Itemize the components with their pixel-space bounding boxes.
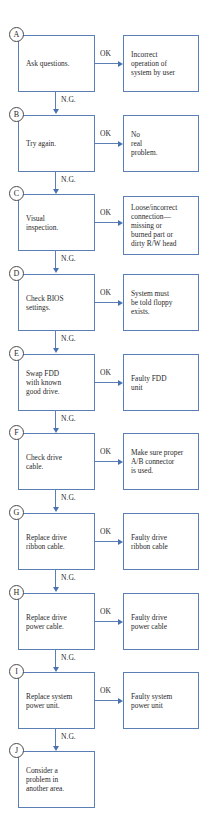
ng-label-b: N.G.	[61, 175, 76, 184]
action-box-i: Replace system power unit.	[18, 672, 95, 729]
ok-label-f: OK	[100, 447, 111, 456]
action-box-c: Visual inspection.	[18, 194, 95, 251]
result-box-b: No real problem.	[123, 115, 199, 172]
ng-label-a: N.G.	[61, 95, 76, 104]
result-box-g: Faulty drive ribbon cable	[123, 513, 199, 570]
arrow-down-icon	[53, 587, 59, 592]
action-text-g: Replace drive ribbon cable.	[26, 532, 91, 550]
result-text-i: Faulty system power unit	[131, 691, 195, 709]
ok-label-i: OK	[100, 686, 111, 695]
result-text-b: No real problem.	[131, 130, 195, 157]
ok-label-h: OK	[100, 607, 111, 616]
step-h: Replace drive power cable. H OK Faulty d…	[0, 593, 207, 673]
step-label-a: A	[9, 27, 24, 42]
action-text-c: Visual inspection.	[26, 213, 91, 231]
step-label-h: H	[9, 585, 24, 600]
result-box-d: System must be told floppy exists.	[123, 274, 199, 331]
action-text-j: Consider a problem in another area.	[26, 766, 91, 793]
step-label-i: I	[9, 664, 24, 679]
step-b: Try again. B OK No real problem. N.G.	[0, 115, 207, 195]
result-text-a: Incorrect operation of system by user	[131, 50, 195, 77]
action-box-e: Swap FDD with known good drive.	[18, 354, 95, 411]
step-g: Replace drive ribbon cable. G OK Faulty …	[0, 513, 207, 593]
result-text-e: Faulty FDD unit	[131, 373, 195, 391]
ok-label-e: OK	[100, 368, 111, 377]
step-i: Replace system power unit. I OK Faulty s…	[0, 672, 207, 752]
step-a: Ask questions. A OK Incorrect operation …	[0, 35, 207, 115]
action-box-g: Replace drive ribbon cable.	[18, 513, 95, 570]
action-box-a: Ask questions.	[18, 35, 95, 92]
action-box-h: Replace drive power cable.	[18, 593, 95, 650]
ng-label-c: N.G.	[61, 254, 76, 263]
result-box-a: Incorrect operation of system by user	[123, 35, 199, 92]
step-f: Check drive cable. F OK Make sure proper…	[0, 433, 207, 513]
ok-label-g: OK	[100, 527, 111, 536]
result-box-c: Loose/incorrect connection— missing or b…	[123, 196, 199, 255]
result-box-e: Faulty FDD unit	[123, 354, 199, 411]
result-text-g: Faulty drive ribbon cable	[131, 532, 195, 550]
step-e: Swap FDD with known good drive. E OK Fau…	[0, 354, 207, 434]
step-label-f: F	[9, 425, 24, 440]
arrow-down-icon	[53, 348, 59, 353]
step-j: Consider a problem in another area. J	[0, 751, 207, 824]
result-box-f: Make sure proper A/B connector is used.	[123, 433, 199, 490]
step-c: Visual inspection. C OK Loose/incorrect …	[0, 194, 207, 274]
ok-label-c: OK	[100, 208, 111, 217]
result-text-d: System must be told floppy exists.	[131, 289, 195, 316]
action-text-h: Replace drive power cable.	[26, 612, 91, 630]
step-d: Check BIOS settings. D OK System must be…	[0, 274, 207, 354]
step-label-d: D	[9, 266, 24, 281]
action-text-i: Replace system power unit.	[26, 691, 91, 709]
ng-label-g: N.G.	[61, 573, 76, 582]
step-label-g: G	[9, 505, 24, 520]
step-label-b: B	[9, 107, 24, 122]
action-text-a: Ask questions.	[26, 59, 91, 68]
result-box-h: Faulty drive power cable	[123, 593, 199, 650]
ng-label-f: N.G.	[61, 493, 76, 502]
action-text-d: Check BIOS settings.	[26, 293, 91, 311]
result-text-h: Faulty drive power cable	[131, 612, 195, 630]
ok-label-d: OK	[100, 288, 111, 297]
action-text-f: Check drive cable.	[26, 452, 91, 470]
ok-label-b: OK	[100, 129, 111, 138]
action-box-f: Check drive cable.	[18, 433, 95, 490]
step-label-c: C	[9, 186, 24, 201]
arrow-down-icon	[53, 507, 59, 512]
step-label-e: E	[9, 346, 24, 361]
action-box-j: Consider a problem in another area.	[18, 751, 95, 808]
arrow-down-icon	[53, 268, 59, 273]
action-text-b: Try again.	[26, 139, 91, 148]
ng-label-e: N.G.	[61, 414, 76, 423]
result-box-i: Faulty system power unit	[123, 672, 199, 729]
ng-label-d: N.G.	[61, 334, 76, 343]
ng-label-i: N.G.	[61, 732, 76, 741]
result-text-f: Make sure proper A/B connector is used.	[131, 448, 195, 475]
action-text-e: Swap FDD with known good drive.	[26, 369, 91, 396]
ok-label-a: OK	[100, 49, 111, 58]
result-text-c: Loose/incorrect connection— missing or b…	[131, 203, 195, 248]
arrow-down-icon	[53, 109, 59, 114]
action-box-b: Try again.	[18, 115, 95, 172]
step-label-j: J	[9, 743, 24, 758]
ng-label-h: N.G.	[61, 653, 76, 662]
action-box-d: Check BIOS settings.	[18, 274, 95, 331]
